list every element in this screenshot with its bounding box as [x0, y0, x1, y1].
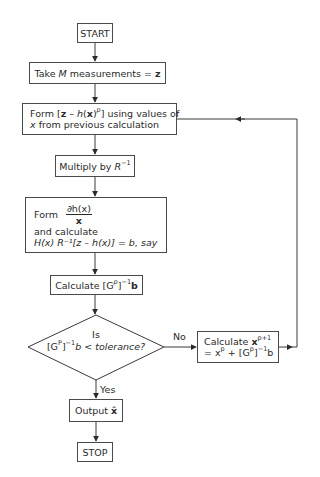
- output-text: Output x̂: [75, 405, 117, 416]
- multiply-node: Multiply by R−1: [55, 155, 135, 177]
- form-partial-line2: and calculate: [34, 226, 98, 237]
- start-label: START: [80, 28, 109, 39]
- form-residual-line1: Form [z – h(x)p] using values of: [30, 108, 179, 119]
- measure-text: Take M measurements = z: [34, 68, 160, 79]
- start-node: START: [77, 23, 113, 43]
- stop-node: STOP: [77, 442, 113, 462]
- tolerance-decision-node: Is [GP]−1b < tolerance?: [28, 329, 164, 353]
- stop-label: STOP: [82, 447, 107, 458]
- calculate-g-text: Calculate [Gp]−1b: [55, 280, 138, 291]
- multiply-text: Multiply by R−1: [59, 161, 130, 172]
- form-partial-line3: H(x) R⁻¹[z – h(x)] = b, say: [34, 237, 157, 248]
- no-label: No: [173, 331, 186, 342]
- update-estimate-node: Calculate xp+1 = xp + [Gp]−1b: [197, 331, 279, 363]
- output-node: Output x̂: [69, 399, 123, 422]
- form-residual-node: Form [z – h(x)p] using values of x from …: [22, 103, 177, 135]
- form-residual-line2: x from previous calculation: [30, 119, 159, 130]
- form-partial-line1: Form ∂h(x) x: [34, 203, 92, 226]
- partial-derivative-fraction: ∂h(x) x: [66, 203, 92, 226]
- yes-label: Yes: [100, 384, 115, 395]
- take-measurements-node: Take M measurements = z: [29, 62, 166, 84]
- calculate-g-node: Calculate [Gp]−1b: [50, 275, 143, 295]
- form-partial-node: Form ∂h(x) x and calculate H(x) R⁻¹[z – …: [25, 197, 167, 253]
